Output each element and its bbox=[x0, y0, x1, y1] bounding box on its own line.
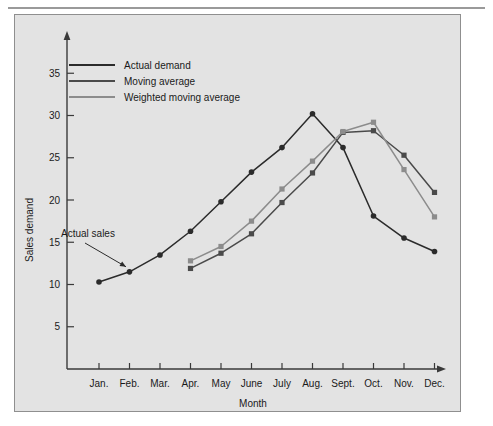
data-point bbox=[218, 244, 223, 249]
x-tick-label-mar: Mar. bbox=[150, 378, 169, 389]
actual-sales-leader-line bbox=[85, 243, 126, 267]
y-axis-tick-labels: 5101520253035 bbox=[49, 68, 61, 333]
y-tick-label-5: 5 bbox=[54, 321, 60, 332]
data-point bbox=[249, 231, 254, 236]
series-line bbox=[191, 131, 435, 269]
data-point bbox=[432, 214, 437, 219]
x-tick-label-apr: Apr. bbox=[182, 378, 200, 389]
data-point bbox=[310, 111, 316, 117]
annotation-layer: Actual sales bbox=[61, 228, 126, 267]
x-axis-arrowhead bbox=[437, 366, 446, 373]
data-point bbox=[371, 120, 376, 125]
data-point bbox=[279, 200, 284, 205]
y-tick-label-25: 25 bbox=[49, 152, 61, 163]
x-axis-ticks bbox=[99, 363, 435, 369]
legend-label-moving-average: Moving average bbox=[124, 76, 196, 87]
data-point bbox=[157, 252, 163, 258]
data-point bbox=[218, 251, 223, 256]
axes-group bbox=[64, 31, 446, 372]
data-point bbox=[218, 199, 224, 205]
data-point bbox=[188, 258, 193, 263]
y-axis-title: Sales demand bbox=[24, 198, 35, 262]
series-weighted-moving-average bbox=[188, 120, 437, 264]
x-axis-tick-labels: Jan.Feb.Mar.Apr.MayJuneJulyAug.Sept.Oct.… bbox=[90, 378, 445, 389]
x-tick-label-feb: Feb. bbox=[119, 378, 139, 389]
data-point bbox=[401, 153, 406, 158]
y-axis-arrowhead bbox=[64, 31, 71, 40]
x-tick-label-oct: Oct. bbox=[364, 378, 382, 389]
data-point bbox=[279, 145, 285, 151]
data-point bbox=[371, 128, 376, 133]
x-tick-label-sept: Sept. bbox=[331, 378, 354, 389]
y-tick-label-15: 15 bbox=[49, 237, 61, 248]
actual-sales-annotation-label: Actual sales bbox=[61, 228, 115, 239]
y-tick-label-20: 20 bbox=[49, 195, 61, 206]
data-point bbox=[371, 213, 377, 219]
series-actual-demand bbox=[96, 111, 437, 285]
legend-label-weighted-moving-average: Weighted moving average bbox=[124, 92, 240, 103]
x-axis-title: Month bbox=[239, 398, 267, 409]
x-tick-label-july: July bbox=[273, 378, 291, 389]
x-tick-label-june: June bbox=[241, 378, 263, 389]
top-horizontal-rule bbox=[8, 7, 485, 9]
y-tick-label-35: 35 bbox=[49, 68, 61, 79]
data-point bbox=[432, 249, 438, 255]
x-tick-label-may: May bbox=[212, 378, 231, 389]
data-point bbox=[310, 170, 315, 175]
data-point bbox=[249, 169, 255, 175]
series-moving-average bbox=[188, 128, 437, 271]
data-point bbox=[279, 186, 284, 191]
data-point bbox=[127, 269, 133, 275]
data-point bbox=[401, 167, 406, 172]
data-point bbox=[249, 219, 254, 224]
x-tick-label-aug: Aug. bbox=[302, 378, 323, 389]
x-tick-label-dec: Dec. bbox=[424, 378, 445, 389]
series-line bbox=[191, 122, 435, 261]
figure-page: 5101520253035 Jan.Feb.Mar.Apr.MayJuneJul… bbox=[0, 0, 493, 426]
data-point bbox=[401, 235, 407, 241]
data-point bbox=[96, 279, 102, 285]
sales-demand-line-chart: 5101520253035 Jan.Feb.Mar.Apr.MayJuneJul… bbox=[15, 15, 460, 411]
data-point bbox=[188, 228, 194, 234]
x-tick-label-nov: Nov. bbox=[394, 378, 414, 389]
data-point bbox=[432, 190, 437, 195]
x-tick-label-jan: Jan. bbox=[90, 378, 109, 389]
legend-label-actual-demand: Actual demand bbox=[124, 60, 191, 71]
data-point bbox=[340, 129, 345, 134]
data-point bbox=[188, 266, 193, 271]
chart-legend: Actual demandMoving averageWeighted movi… bbox=[69, 60, 240, 103]
data-point bbox=[340, 145, 346, 151]
y-tick-label-10: 10 bbox=[49, 279, 61, 290]
y-axis-ticks bbox=[67, 73, 74, 327]
y-tick-label-30: 30 bbox=[49, 110, 61, 121]
data-point bbox=[310, 159, 315, 164]
chart-figure-container: 5101520253035 Jan.Feb.Mar.Apr.MayJuneJul… bbox=[14, 14, 461, 412]
data-series-layer bbox=[96, 111, 437, 285]
